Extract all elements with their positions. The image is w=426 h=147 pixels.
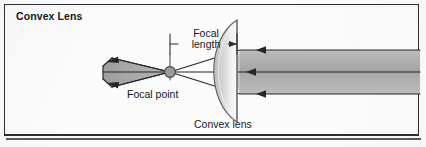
focal-point-label: Focal point bbox=[127, 89, 178, 100]
arrowhead-wedge-upper bbox=[107, 57, 119, 64]
focal-length-label: Focal length bbox=[177, 28, 235, 51]
focal-point-dot bbox=[165, 67, 176, 78]
convex-lens-label: Convex lens bbox=[194, 119, 252, 130]
arrowhead-wedge-lower bbox=[107, 82, 119, 89]
beam-band-lower bbox=[240, 72, 420, 94]
focal-length-label-line2: length bbox=[177, 39, 235, 50]
focal-point-marker bbox=[165, 67, 176, 78]
beam-band-upper bbox=[240, 50, 420, 72]
convex-lens-figure: Convex Lens bbox=[0, 0, 426, 147]
